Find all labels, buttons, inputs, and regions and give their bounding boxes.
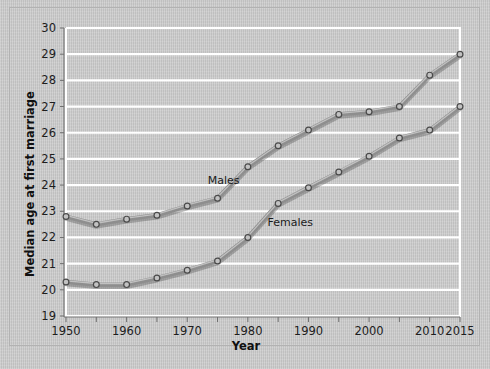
data-point-females-1955 xyxy=(93,282,99,288)
y-tick-label-27: 27 xyxy=(41,100,56,114)
data-point-males-1950 xyxy=(63,214,69,220)
data-point-males-1985 xyxy=(275,143,281,149)
x-tick-label-1970: 1970 xyxy=(173,324,202,338)
data-point-males-1970 xyxy=(184,203,190,209)
data-point-males-2010 xyxy=(427,72,433,78)
data-point-males-1960 xyxy=(124,216,130,222)
data-point-males-1955 xyxy=(93,221,99,227)
x-tick-label-1960: 1960 xyxy=(112,324,141,338)
y-tick-label-20: 20 xyxy=(41,283,56,297)
y-tick-label-23: 23 xyxy=(41,204,56,218)
y-axis-title: Median age at first marriage xyxy=(23,91,37,277)
data-point-males-2015 xyxy=(457,51,463,57)
data-point-females-2005 xyxy=(396,135,402,141)
x-tick-label-2000: 2000 xyxy=(354,324,383,338)
y-tick-label-22: 22 xyxy=(41,230,56,244)
data-point-females-2015 xyxy=(457,104,463,110)
series-label-females: Females xyxy=(268,216,314,229)
data-point-males-2000 xyxy=(366,109,372,115)
data-point-females-1975 xyxy=(215,258,221,264)
data-point-males-1975 xyxy=(215,195,221,201)
x-tick-label-1990: 1990 xyxy=(294,324,323,338)
y-tick-label-26: 26 xyxy=(41,126,56,140)
y-tick-label-30: 30 xyxy=(41,21,56,35)
line-chart: 1920212223242526272829301950196019701980… xyxy=(0,0,490,369)
data-point-females-1990 xyxy=(306,185,312,191)
data-point-females-1970 xyxy=(184,267,190,273)
x-tick-label-2010: 2010 xyxy=(415,324,444,338)
y-tick-label-21: 21 xyxy=(41,257,56,271)
x-axis-title: Year xyxy=(231,339,261,353)
y-tick-label-28: 28 xyxy=(41,73,56,87)
x-tick-label-2015: 2015 xyxy=(445,324,474,338)
data-point-females-1985 xyxy=(275,201,281,207)
y-tick-label-24: 24 xyxy=(41,178,56,192)
x-tick-label-1950: 1950 xyxy=(51,324,80,338)
data-point-males-1995 xyxy=(336,112,342,118)
series-females xyxy=(63,104,463,288)
y-tick-label-29: 29 xyxy=(41,47,56,61)
data-point-females-1980 xyxy=(245,235,251,241)
data-point-males-1980 xyxy=(245,164,251,170)
data-point-males-1990 xyxy=(306,127,312,133)
data-point-females-1960 xyxy=(124,282,130,288)
data-point-males-2005 xyxy=(396,104,402,110)
y-tick-label-25: 25 xyxy=(41,152,56,166)
y-tick-label-19: 19 xyxy=(41,309,56,323)
x-tick-label-1980: 1980 xyxy=(233,324,262,338)
data-point-females-2000 xyxy=(366,153,372,159)
data-point-females-1965 xyxy=(154,275,160,281)
data-point-females-1995 xyxy=(336,169,342,175)
figure-container: 1920212223242526272829301950196019701980… xyxy=(0,0,490,369)
data-point-males-1965 xyxy=(154,212,160,218)
data-point-females-2010 xyxy=(427,127,433,133)
data-point-females-1950 xyxy=(63,279,69,285)
plot-frame xyxy=(66,28,460,316)
series-label-males: Males xyxy=(208,174,240,187)
